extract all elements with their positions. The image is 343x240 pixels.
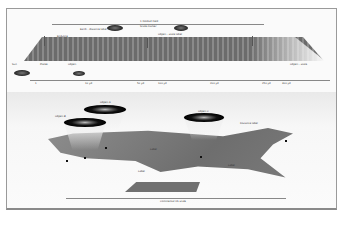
map-plane: [125, 182, 200, 192]
ring-1: [84, 105, 126, 114]
axis-tick: 10 yd: [85, 82, 92, 85]
bottom-bracket-label: Continental US scale: [160, 200, 186, 203]
ring-2: [64, 118, 106, 127]
map-annotation: Label: [150, 148, 157, 151]
axis-tick: 1: [35, 82, 37, 85]
callout: Earth - distance label: [80, 28, 107, 31]
callout: Object - scale label: [158, 33, 182, 36]
ring-3: [184, 113, 224, 122]
scale-axis: [30, 80, 330, 81]
bottom-label: Object: [68, 63, 76, 66]
ring-label: Object B: [55, 115, 66, 118]
map-annotation: Distance label: [240, 122, 258, 125]
bottom-label: Object - scale: [290, 63, 307, 66]
disc-bottom-2: [73, 71, 85, 76]
bottom-label: Sun: [12, 63, 17, 66]
top-bracket: [52, 24, 264, 25]
top-bracket-label: 1 football field: [140, 20, 158, 23]
map-annotation: Label: [138, 170, 145, 173]
goalpost-left: [44, 36, 45, 46]
city-marker: [84, 157, 86, 159]
disc-top-2: [174, 25, 188, 31]
axis-tick: 200 yd: [210, 82, 219, 85]
city-marker: [105, 147, 107, 149]
callout: Scale marker: [140, 25, 156, 28]
ring-label: Object C: [198, 110, 209, 113]
city-marker: [66, 160, 68, 162]
goalpost-mid: [147, 38, 148, 48]
axis-tick: 250 yd: [262, 82, 271, 85]
axis-tick: 300 yd: [282, 82, 291, 85]
disc-bottom-1: [14, 70, 30, 76]
axis-tick: 50 yd: [137, 82, 144, 85]
city-marker: [285, 140, 287, 142]
goalpost-right: [252, 36, 253, 46]
map-annotation: Label: [228, 164, 235, 167]
callout: Endzone: [57, 35, 68, 38]
bottom-label: Planet: [40, 63, 48, 66]
axis-tick: 100 yd: [158, 82, 167, 85]
city-marker: [200, 156, 202, 158]
ring-label: Object A: [100, 101, 111, 104]
bottom-bracket: [66, 198, 286, 199]
disc-top-1: [107, 25, 123, 31]
